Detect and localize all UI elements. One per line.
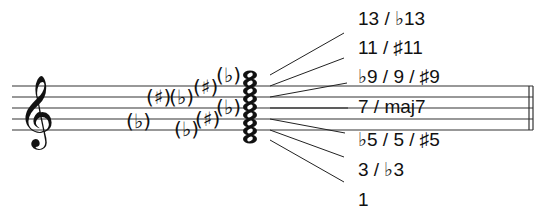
staff-graphic: 𝄞 (♭) (♯) (♭) (♭) — [0, 0, 541, 219]
label-eleventh: 11 / ♯11 — [358, 37, 423, 59]
label-fifth: ♭5 / 5 / ♯5 — [358, 129, 440, 151]
svg-text:(♭): (♭) — [169, 85, 194, 109]
accidentals: (♭) (♯) (♭) (♭) (♯) (♯) (♭) (♭) — [126, 63, 241, 141]
label-ninth: ♭9 / 9 / ♯9 — [358, 66, 440, 88]
svg-text:(♯): (♯) — [146, 85, 171, 109]
svg-text:(♯): (♯) — [193, 75, 218, 99]
label-root: 1 — [358, 189, 369, 211]
label-thirteenth: 13 / ♭13 — [358, 8, 425, 30]
label-third: 3 / ♭3 — [358, 159, 404, 181]
label-seventh: 7 / maj7 — [358, 96, 426, 118]
leader-lines — [270, 33, 348, 182]
chord-extensions-diagram: 𝄞 (♭) (♯) (♭) (♭) — [0, 0, 541, 219]
svg-text:(♭): (♭) — [126, 109, 151, 133]
svg-text:(♭): (♭) — [216, 63, 241, 87]
treble-clef-icon: 𝄞 — [18, 74, 55, 150]
svg-text:(♭): (♭) — [216, 95, 241, 119]
